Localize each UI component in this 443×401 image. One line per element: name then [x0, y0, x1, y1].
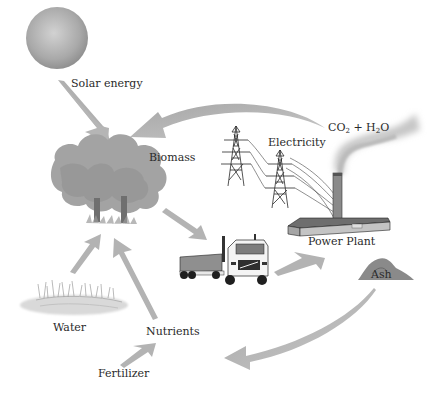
label-fertilizer: Fertilizer: [98, 368, 149, 379]
sun-icon: [26, 7, 88, 69]
arrow-emissions-to-biomass: [130, 104, 325, 138]
truck-icon: [180, 234, 268, 285]
co2-text: CO: [328, 121, 345, 134]
arrow-biomass-to-truck: [162, 208, 207, 240]
arrow-fertilizer-to-nutrients: [120, 343, 156, 368]
label-solar-energy: Solar energy: [71, 78, 143, 89]
arrow-water-to-biomass: [70, 234, 101, 274]
o-text: O: [380, 121, 389, 134]
label-ash: Ash: [371, 269, 392, 280]
label-electricity: Electricity: [268, 137, 326, 148]
plus-h-text: + H: [350, 121, 376, 134]
label-emissions: CO2 + H2O: [328, 122, 389, 133]
power-lines: [248, 140, 334, 218]
tree-icon: [51, 134, 167, 224]
label-power-plant: Power Plant: [308, 236, 375, 247]
label-nutrients: Nutrients: [146, 326, 200, 337]
water-marsh-icon: [20, 280, 128, 315]
arrow-ash-to-nutrients: [224, 288, 376, 370]
label-biomass: Biomass: [149, 152, 196, 163]
label-water: Water: [53, 322, 86, 333]
biomass-cycle-diagram: [0, 0, 443, 401]
arrow-truck-to-powerplant: [274, 252, 325, 276]
